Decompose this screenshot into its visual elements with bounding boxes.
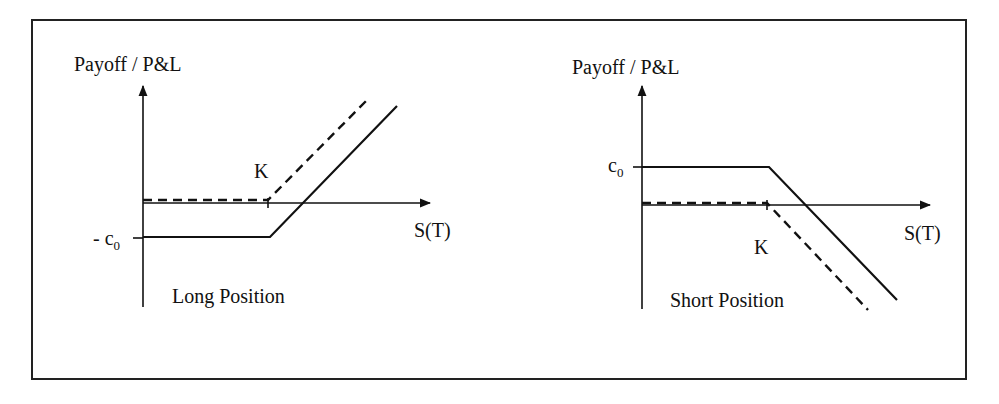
short-x-axis-label: S(T)	[904, 222, 941, 245]
long-x-axis-label: S(T)	[414, 219, 451, 242]
short-position-caption: Short Position	[670, 289, 784, 311]
short-premium-label-subscript: 0	[617, 165, 624, 180]
long-premium-label: - c0	[93, 227, 120, 253]
long-position-caption: Long Position	[172, 285, 285, 308]
long-position-panel: Payoff / P&L S(T) K - c0 Long Position	[74, 53, 451, 308]
short-pnl-solid-line	[642, 167, 897, 300]
long-y-axis-label: Payoff / P&L	[74, 53, 181, 76]
long-payoff-dashed-line	[143, 97, 370, 200]
long-pnl-solid-line	[143, 106, 397, 237]
long-premium-label-prefix: - c	[93, 227, 114, 249]
short-premium-label: c0	[608, 154, 623, 180]
long-strike-label: K	[254, 160, 269, 182]
short-y-axis-label: Payoff / P&L	[572, 56, 679, 79]
short-strike-label: K	[754, 236, 769, 258]
short-premium-label-prefix: c	[608, 154, 617, 176]
short-position-panel: Payoff / P&L S(T) K c0 Short Position	[572, 56, 941, 311]
option-payoff-figure: Payoff / P&L S(T) K - c0 Long Position P…	[0, 0, 999, 404]
long-premium-label-subscript: 0	[114, 238, 121, 253]
